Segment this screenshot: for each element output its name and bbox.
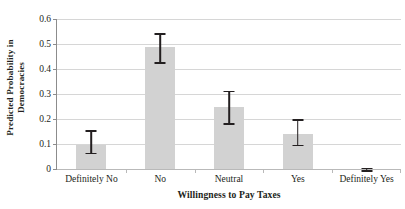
error-bar — [228, 91, 230, 124]
error-bar — [91, 130, 93, 152]
plot-area: 00.10.20.30.40.50.6 — [57, 19, 401, 169]
x-tick-mark — [400, 169, 401, 173]
bar-chart-figure: Predicted Probability in Democracies 00.… — [0, 0, 405, 209]
gridline — [57, 44, 401, 45]
x-tick-label: Yes — [291, 174, 305, 184]
error-bar-cap-upper — [224, 91, 235, 93]
error-bar-cap-upper — [292, 119, 303, 121]
y-tick-mark — [53, 169, 57, 170]
y-tick-mark — [53, 69, 57, 70]
x-tick-mark — [332, 169, 333, 173]
y-tick-label: 0.2 — [39, 114, 51, 124]
y-tick-label: 0.6 — [39, 14, 51, 24]
error-bar-cap-upper — [155, 33, 166, 35]
x-tick-label: Definitely No — [65, 174, 118, 184]
bar — [145, 47, 175, 169]
error-bar-cap-lower — [86, 153, 97, 155]
x-tick-mark — [195, 169, 196, 173]
y-tick-label: 0.4 — [39, 64, 51, 74]
x-tick-mark — [263, 169, 264, 173]
error-bar-cap-lower — [292, 145, 303, 147]
y-tick-label: 0.1 — [39, 139, 51, 149]
error-bar-cap-lower — [361, 170, 372, 172]
gridline — [57, 19, 401, 20]
y-axis-title-line-1: Predicted Probability in — [5, 39, 15, 136]
x-tick-label: No — [154, 174, 166, 184]
error-bar-cap-lower — [224, 123, 235, 125]
y-tick-mark — [53, 44, 57, 45]
x-axis-line — [57, 169, 401, 170]
x-tick-label: Neutral — [215, 174, 244, 184]
y-tick-mark — [53, 144, 57, 145]
y-tick-label: 0 — [46, 164, 51, 174]
error-bar-cap-upper — [361, 168, 372, 170]
y-tick-label: 0.3 — [39, 89, 51, 99]
y-tick-mark — [53, 94, 57, 95]
gridline — [57, 69, 401, 70]
error-bar-cap-upper — [86, 130, 97, 132]
error-bar-cap-lower — [155, 62, 166, 64]
y-axis-title-line-2: Democracies — [15, 39, 26, 136]
y-tick-mark — [53, 119, 57, 120]
error-bar — [159, 33, 161, 62]
x-axis-title: Willingness to Pay Taxes — [57, 189, 401, 200]
error-bar — [297, 119, 299, 145]
x-tick-mark — [126, 169, 127, 173]
y-tick-mark — [53, 19, 57, 20]
x-tick-label: Definitely Yes — [339, 174, 393, 184]
y-axis-title: Predicted Probability in Democracies — [0, 0, 30, 175]
y-tick-label: 0.5 — [39, 39, 51, 49]
